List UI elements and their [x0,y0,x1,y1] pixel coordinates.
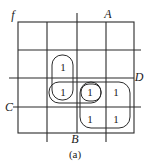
variable-label-b: B [71,132,79,146]
cell-r1-c1: 1 [60,61,66,73]
cell-r3-c2: 1 [87,113,93,125]
cell-r2-c2: 1 [87,86,93,98]
cell-r2-c3: 1 [113,86,119,98]
function-label: f [11,8,16,22]
cell-r3-c3: 1 [113,113,119,125]
variable-label-d: D [134,70,144,84]
variable-label-c: C [5,100,14,114]
cell-r2-c1: 1 [60,86,66,98]
karnaugh-map: f A D C B (a) 1 1 1 1 1 1 [0,0,153,168]
loop-horizontal-pair [49,82,101,103]
variable-label-a: A [103,7,112,21]
figure-caption: (a) [69,148,82,161]
